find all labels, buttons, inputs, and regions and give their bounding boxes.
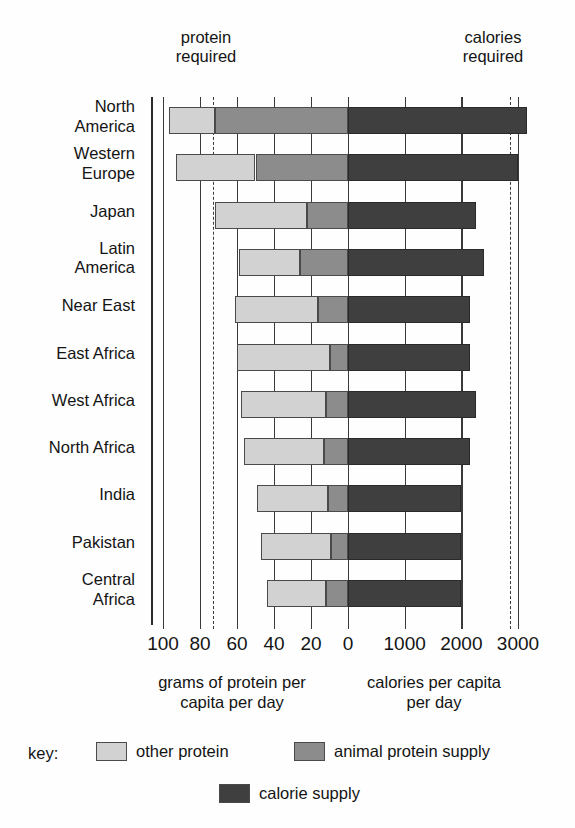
tick-label-protein: 60 bbox=[226, 632, 247, 656]
gridline-protein-100 bbox=[163, 97, 164, 629]
category-labels: North AmericaWestern EuropeJapanLatin Am… bbox=[0, 103, 145, 623]
legend-label-calorie-supply: calorie supply bbox=[259, 784, 360, 803]
legend-swatch-other-protein bbox=[96, 742, 127, 761]
bar-segment-other-protein bbox=[244, 438, 324, 465]
bar-segment-animal-protein bbox=[256, 154, 349, 181]
bar-segment-other-protein bbox=[169, 107, 215, 134]
tick-label-protein: 40 bbox=[263, 632, 284, 656]
category-label: Japan bbox=[0, 202, 135, 222]
bar-segment-other-protein bbox=[241, 391, 326, 418]
legend-item-other-protein: other protein bbox=[96, 742, 229, 761]
category-label: North Africa bbox=[0, 438, 135, 458]
bar-segment-other-protein bbox=[235, 296, 318, 323]
right-axis-title: calories per capita per day bbox=[336, 672, 532, 712]
category-label: Pakistan bbox=[0, 533, 135, 553]
plot-area bbox=[152, 103, 527, 623]
bar-segment-animal-protein bbox=[307, 202, 348, 229]
category-label: West Africa bbox=[0, 391, 135, 411]
bar-segment-calorie-supply bbox=[348, 580, 461, 607]
legend-item-animal-protein: animal protein supply bbox=[294, 742, 490, 761]
bar-segment-other-protein bbox=[215, 202, 308, 229]
x-axis-tick-labels: 100806040200100020003000 bbox=[0, 632, 575, 662]
category-label: Latin America bbox=[0, 239, 135, 278]
bar-segment-animal-protein bbox=[330, 344, 349, 371]
bar-segment-other-protein bbox=[261, 533, 331, 560]
legend-swatch-animal-protein bbox=[294, 742, 325, 761]
legend-key-label: key: bbox=[28, 744, 58, 763]
bar-segment-animal-protein bbox=[215, 107, 348, 134]
bar-segment-other-protein bbox=[239, 249, 300, 276]
calories-required-annotation: calories required bbox=[430, 28, 556, 66]
tick-label-calories: 3000 bbox=[497, 632, 539, 656]
tick-label-calories: 1000 bbox=[384, 632, 426, 656]
bar-segment-calorie-supply bbox=[348, 344, 470, 371]
bar-segment-other-protein bbox=[267, 580, 326, 607]
category-label: India bbox=[0, 485, 135, 505]
bar-segment-animal-protein bbox=[324, 438, 348, 465]
legend-label-other-protein: other protein bbox=[136, 742, 229, 761]
category-label: North America bbox=[0, 97, 135, 136]
category-label: Western Europe bbox=[0, 144, 135, 183]
protein-calorie-supply-chart: protein required calories required North… bbox=[0, 0, 575, 828]
category-label: Central Africa bbox=[0, 570, 135, 609]
bar-segment-calorie-supply bbox=[348, 154, 518, 181]
bar-segment-other-protein bbox=[237, 344, 330, 371]
category-label: Near East bbox=[0, 296, 135, 316]
bar-segment-calorie-supply bbox=[348, 249, 484, 276]
left-axis-title: grams of protein per capita per day bbox=[132, 672, 332, 712]
bar-segment-calorie-supply bbox=[348, 533, 461, 560]
bar-segment-animal-protein bbox=[300, 249, 348, 276]
tick-label-protein: 0 bbox=[343, 632, 354, 656]
bar-segment-animal-protein bbox=[318, 296, 348, 323]
category-label: East Africa bbox=[0, 344, 135, 364]
bar-segment-calorie-supply bbox=[348, 438, 470, 465]
protein-required-annotation: protein required bbox=[146, 28, 266, 66]
tick-label-protein: 20 bbox=[300, 632, 321, 656]
tick-label-protein: 80 bbox=[189, 632, 210, 656]
bar-segment-calorie-supply bbox=[348, 391, 476, 418]
legend-item-calorie-supply: calorie supply bbox=[219, 784, 360, 803]
tick-label-calories: 2000 bbox=[440, 632, 482, 656]
bar-segment-calorie-supply bbox=[348, 485, 461, 512]
bar-segment-other-protein bbox=[257, 485, 327, 512]
gridline-calories-3000 bbox=[518, 97, 519, 629]
tick-label-protein: 100 bbox=[147, 632, 179, 656]
bar-segment-calorie-supply bbox=[348, 202, 476, 229]
bar-segment-other-protein bbox=[176, 154, 256, 181]
legend-label-animal-protein: animal protein supply bbox=[334, 742, 490, 761]
bar-segment-animal-protein bbox=[328, 485, 348, 512]
legend: key: other protein animal protein supply… bbox=[0, 742, 575, 822]
bar-segment-animal-protein bbox=[326, 391, 348, 418]
bar-segment-animal-protein bbox=[331, 533, 348, 560]
bar-segment-calorie-supply bbox=[348, 296, 470, 323]
bar-segment-animal-protein bbox=[326, 580, 348, 607]
legend-swatch-calorie-supply bbox=[219, 784, 250, 803]
bar-segment-calorie-supply bbox=[348, 107, 527, 134]
